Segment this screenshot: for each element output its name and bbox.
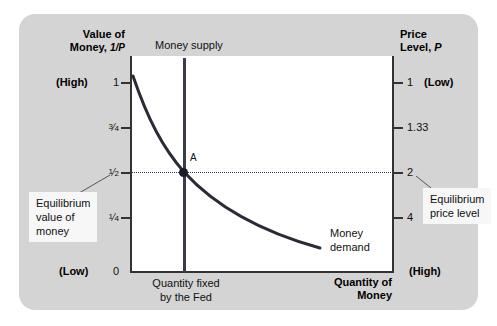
money-market-figure: Value of Money, 1/P Price Level, P 1 3⁄4… bbox=[0, 0, 497, 326]
equilibrium-value-callout-line3: money bbox=[36, 225, 69, 237]
left-tick-label-one-half: 1⁄2 bbox=[97, 166, 119, 178]
left-tick-mark-one-quarter bbox=[121, 217, 131, 219]
right-axis-line bbox=[392, 56, 394, 273]
equilibrium-guide-line bbox=[131, 172, 393, 173]
equilibrium-price-callout-line2: price level bbox=[430, 207, 480, 219]
equilibrium-point-label: A bbox=[190, 152, 197, 163]
right-tick-mark-2 bbox=[393, 172, 403, 174]
equilibrium-value-callout-line2: value of bbox=[36, 211, 75, 223]
money-supply-label: Money supply bbox=[155, 38, 223, 52]
x-axis-title: Quantity of Money bbox=[322, 276, 392, 302]
equilibrium-value-callout-line1: Equilibrium bbox=[36, 197, 90, 209]
right-axis-title-line1: Price bbox=[400, 28, 427, 40]
right-axis-title: Price Level, P bbox=[400, 28, 442, 54]
right-tick-mark-4 bbox=[393, 217, 403, 219]
left-axis-title-line1: Value of bbox=[83, 28, 125, 40]
right-axis-title-variable: P bbox=[434, 41, 441, 53]
right-tick-label-4: 4 bbox=[407, 211, 413, 223]
left-tick-mark-1 bbox=[121, 82, 131, 84]
frac-denominator: 2 bbox=[115, 169, 119, 178]
quantity-fixed-label: Quantity fixed by the Fed bbox=[152, 276, 220, 304]
right-tick-label-133: 1.33 bbox=[407, 121, 428, 133]
right-tick-label-2: 2 bbox=[407, 166, 413, 178]
right-tick-mark-1 bbox=[393, 82, 403, 84]
quantity-fixed-label-line1: Quantity fixed bbox=[152, 277, 219, 289]
right-axis-high-marker: (High) bbox=[409, 265, 441, 277]
x-axis-title-line2: Money bbox=[357, 289, 392, 301]
left-axis-line bbox=[130, 56, 132, 273]
frac-denominator: 4 bbox=[115, 214, 119, 223]
right-tick-mark-133 bbox=[393, 127, 403, 129]
frac-denominator: 4 bbox=[115, 124, 119, 133]
left-axis-low-marker: (Low) bbox=[59, 265, 88, 277]
equilibrium-price-callout-line1: Equilibrium bbox=[430, 193, 484, 205]
left-tick-mark-one-half bbox=[121, 172, 131, 174]
money-demand-label-line1: Money bbox=[330, 227, 363, 239]
left-axis-title-variable: 1/P bbox=[110, 42, 125, 53]
equilibrium-value-callout: Equilibrium value of money bbox=[29, 192, 97, 242]
left-tick-label-three-quarters: 3⁄4 bbox=[97, 121, 119, 133]
money-demand-label: Money demand bbox=[330, 226, 370, 254]
left-tick-label-1: 1 bbox=[103, 76, 119, 88]
left-tick-label-0: 0 bbox=[103, 265, 119, 277]
equilibrium-price-callout: Equilibrium price level bbox=[423, 188, 491, 224]
right-axis-title-line2-prefix: Level, bbox=[400, 41, 434, 53]
left-tick-label-one-quarter: 1⁄4 bbox=[97, 211, 119, 223]
equilibrium-point-marker bbox=[179, 168, 188, 177]
left-axis-title: Value of Money, 1/P bbox=[47, 28, 125, 54]
money-demand-label-line2: demand bbox=[330, 241, 370, 253]
money-supply-line bbox=[183, 58, 186, 272]
right-tick-label-1: 1 bbox=[407, 76, 413, 88]
bottom-axis-line bbox=[130, 271, 394, 273]
quantity-fixed-label-line2: by the Fed bbox=[160, 291, 212, 303]
x-axis-title-line1: Quantity of bbox=[334, 276, 392, 288]
left-tick-mark-three-quarters bbox=[121, 127, 131, 129]
right-axis-low-marker: (Low) bbox=[424, 76, 453, 88]
left-axis-title-line2-prefix: Money, bbox=[70, 41, 110, 53]
left-axis-high-marker: (High) bbox=[56, 76, 88, 88]
